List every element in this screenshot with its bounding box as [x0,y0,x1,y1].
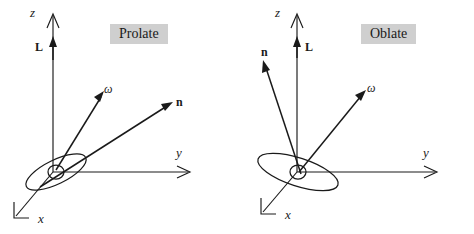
oblate-diagram [237,0,474,234]
panel-title-oblate: Oblate [361,24,416,44]
angular-velocity-label-prolate: ω [104,83,112,95]
x-axis-label-prolate: x [38,212,44,225]
angular-momentum-vector-oblate [293,36,301,58]
symmetry-axis-label-prolate: n [176,96,183,108]
z-axis-label-prolate: z [30,6,35,19]
panel-oblate: z y x L ω n Oblate [237,0,474,234]
y-axis-label-oblate: y [423,146,429,159]
y-axis-oblate [297,166,437,178]
x-axis-prolate [14,172,53,218]
angular-velocity-vector-prolate [56,91,104,170]
angular-momentum-label-oblate: L [305,41,313,53]
symmetry-axis-label-oblate: n [261,46,268,58]
x-axis-label-oblate: x [285,208,291,221]
z-axis-label-oblate: z [275,6,280,19]
angular-momentum-label-prolate: L [35,41,43,53]
y-axis-label-prolate: y [176,146,182,159]
x-axis-oblate [261,172,297,214]
physics-figure: z y x L ω n Prolate [0,0,474,234]
angular-velocity-label-oblate: ω [367,82,375,94]
symmetry-axis-vector-prolate [40,102,173,187]
panel-title-prolate: Prolate [110,24,168,44]
angular-velocity-vector-oblate [299,90,366,172]
angular-momentum-vector-prolate [49,36,57,60]
panel-prolate: z y x L ω n Prolate [0,0,237,234]
